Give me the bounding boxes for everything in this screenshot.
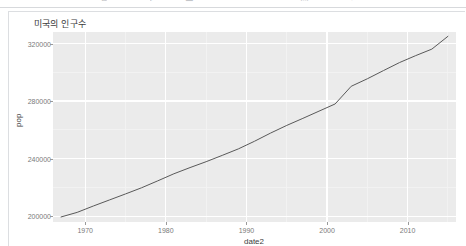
stop-icon[interactable]: ■ bbox=[185, 0, 194, 2]
series-line-pop bbox=[61, 36, 448, 217]
y-axis-tick-label: 320000 bbox=[28, 40, 51, 47]
y-axis-tick-label: 280000 bbox=[28, 98, 51, 105]
x-axis-tick-mark bbox=[327, 222, 328, 225]
back-icon[interactable]: ← bbox=[6, 0, 14, 2]
x-axis-tick-label: 1980 bbox=[158, 227, 174, 234]
paste-icon[interactable]: ⎘ bbox=[100, 0, 107, 2]
y-axis-tick-mark bbox=[50, 44, 53, 45]
x-axis-tick-mark bbox=[408, 222, 409, 225]
x-axis-tick-label: 1970 bbox=[77, 227, 93, 234]
plot-card: 미국의 인구수 20000024000028000032000019701980… bbox=[8, 11, 465, 246]
settings-icon[interactable]: ⚙ bbox=[348, 0, 356, 2]
menu-icon[interactable]: ☰ bbox=[34, 0, 42, 2]
app-toolbar-strip: ←☰✂❐⎘▶■⬚⚙ bbox=[0, 0, 466, 8]
chart-title: 미국의 인구수 bbox=[34, 17, 86, 30]
y-axis-tick-mark bbox=[50, 216, 53, 217]
minor-gridlines bbox=[53, 32, 456, 222]
plot-panel-svg bbox=[53, 32, 456, 222]
screenshot-root: ←☰✂❐⎘▶■⬚⚙ 미국의 인구수 2000002400002800003200… bbox=[0, 0, 466, 246]
ggplot-chart: 미국의 인구수 20000024000028000032000019701980… bbox=[9, 12, 466, 246]
y-axis-tick-label: 240000 bbox=[28, 155, 51, 162]
major-gridlines bbox=[53, 32, 456, 222]
save-icon[interactable]: ⬚ bbox=[300, 0, 309, 2]
copy-icon[interactable]: ❐ bbox=[88, 0, 96, 2]
x-axis-tick-label: 1990 bbox=[239, 227, 255, 234]
x-axis-title: date2 bbox=[244, 237, 264, 246]
y-axis-tick-mark bbox=[50, 159, 53, 160]
x-axis-tick-label: 2000 bbox=[319, 227, 335, 234]
y-axis-tick-mark bbox=[50, 101, 53, 102]
x-axis-tick-mark bbox=[166, 222, 167, 225]
toolbar-divider bbox=[0, 7, 466, 8]
plot-panel bbox=[53, 32, 456, 222]
x-axis-tick-mark bbox=[85, 222, 86, 225]
cut-icon[interactable]: ✂ bbox=[74, 0, 82, 2]
y-axis-title: pop bbox=[14, 114, 23, 127]
run-icon[interactable]: ▶ bbox=[150, 0, 157, 2]
y-axis-tick-label: 200000 bbox=[28, 213, 51, 220]
x-axis-tick-label: 2010 bbox=[400, 227, 416, 234]
x-axis-tick-mark bbox=[246, 222, 247, 225]
